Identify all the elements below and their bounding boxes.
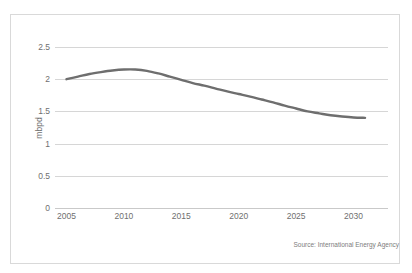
series-line-mbpd xyxy=(55,47,388,208)
y-axis-tick-label: 2.5 xyxy=(10,43,50,52)
x-axis-tick-label: 2005 xyxy=(43,211,89,222)
x-axis-tick-label: 2010 xyxy=(101,211,147,222)
x-axis-tick-label: 2025 xyxy=(273,211,319,222)
y-axis-tick-label: 2 xyxy=(10,75,50,84)
x-axis-tick-label: 2030 xyxy=(331,211,377,222)
clipped-caption xyxy=(8,0,338,9)
gridline-y xyxy=(55,208,388,209)
plot-area xyxy=(55,47,388,208)
x-axis-tick-labels: 200520102015202020252030 xyxy=(55,211,388,225)
x-axis-tick-label: 2020 xyxy=(216,211,262,222)
y-axis-tick-label: 0.5 xyxy=(10,172,50,181)
source-note: Source: International Energy Agency xyxy=(293,240,399,249)
chart-figure: 2.521.510.50 mbpd 2005201020152020202520… xyxy=(0,0,412,273)
x-axis-tick-label: 2015 xyxy=(158,211,204,222)
